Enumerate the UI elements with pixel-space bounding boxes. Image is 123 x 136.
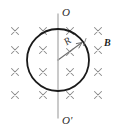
field-cross: [40, 47, 47, 54]
field-cross: [40, 92, 47, 99]
field-cross: [95, 47, 102, 54]
axis-label-bottom: O': [62, 115, 72, 126]
field-cross: [40, 69, 47, 76]
field-cross: [12, 47, 19, 54]
field-cross: [12, 69, 19, 76]
field-cross: [12, 28, 19, 35]
field-cross: [67, 69, 74, 76]
field-cross: [95, 92, 102, 99]
axis-label-top: O: [62, 7, 70, 18]
field-cross: [67, 92, 74, 99]
field-cross: [95, 69, 102, 76]
field-cross: [95, 28, 102, 35]
loop-center-point: [57, 59, 59, 61]
physics-figure-magnetic-loop: O O' R B: [0, 0, 123, 136]
magnetic-field-label: B: [104, 38, 111, 48]
field-cross: [12, 92, 19, 99]
